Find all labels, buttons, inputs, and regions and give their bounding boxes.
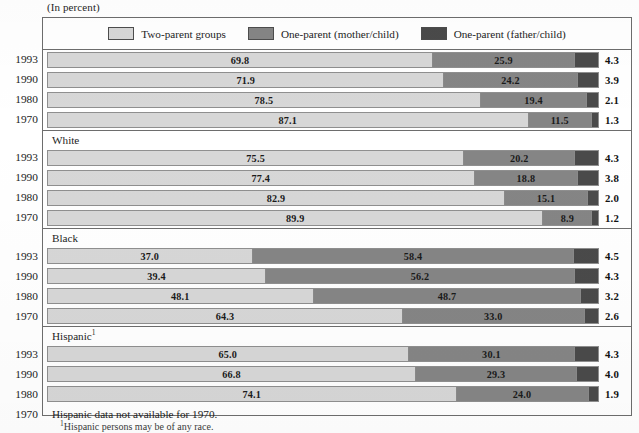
bar-segment-one-parent-mother: 11.5 (528, 113, 591, 127)
chart-row: 66.829.34.04.0 (43, 364, 631, 384)
bar-segment-two-parent: 71.9 (48, 73, 443, 87)
row-value-father-child: 3.9 (605, 72, 619, 88)
bar-segment-value: 56.2 (411, 271, 430, 282)
chart-row: 87.111.51.31.3 (43, 110, 631, 130)
bar-segment-two-parent: 66.8 (48, 367, 415, 381)
bar-segment-value: 66.8 (222, 369, 241, 380)
stacked-bar: 48.148.73.2 (47, 288, 599, 304)
bar-segment-one-parent-father: 4.3 (574, 151, 598, 165)
bar-segment-value: 77.4 (252, 173, 271, 184)
row-value-father-child: 4.3 (605, 150, 619, 166)
chart-plot-area: 69.825.94.34.371.924.23.93.978.519.42.12… (43, 50, 631, 415)
stacked-bar: 66.829.34.0 (47, 366, 599, 382)
year-axis-label: 1970 (0, 404, 38, 424)
legend-item-label: One-parent (father/child) (454, 28, 566, 40)
stacked-bar: 39.456.24.3 (47, 268, 599, 284)
bar-segment-value: 74.1 (242, 389, 261, 400)
legend-item-label: Two-parent groups (141, 28, 226, 40)
row-value-father-child: 1.3 (605, 112, 619, 128)
bar-segment-one-parent-father: 3.8 (577, 171, 598, 185)
bar-segment-value: 65.0 (219, 349, 238, 360)
chart-row: 48.148.73.23.2 (43, 286, 631, 306)
bar-segment-one-parent-father: 2.0 (587, 191, 598, 205)
chart-legend: Two-parent groupsOne-parent (mother/chil… (43, 18, 631, 50)
bar-segment-value: 33.0 (484, 311, 503, 322)
stacked-bar: 69.825.94.3 (47, 52, 599, 68)
bar-segment-value: 25.9 (494, 55, 513, 66)
bar-segment-two-parent: 48.1 (48, 289, 313, 303)
bar-segment-one-parent-mother: 48.7 (313, 289, 581, 303)
year-axis-label: 1980 (0, 89, 38, 109)
chart-group-all: 69.825.94.34.371.924.23.93.978.519.42.12… (43, 50, 631, 130)
footnote-text: Hispanic persons may be of any race. (64, 421, 214, 432)
year-axis-label: 1993 (0, 246, 38, 266)
bar-segment-one-parent-father: 3.2 (580, 289, 598, 303)
bar-segment-one-parent-mother: 19.4 (480, 93, 587, 107)
bar-segment-one-parent-mother: 24.2 (443, 73, 576, 87)
bar-segment-value: 58.4 (404, 251, 423, 262)
bar-segment-one-parent-mother: 25.9 (432, 53, 574, 67)
bar-segment-one-parent-father: 1.2 (591, 211, 598, 225)
bar-segment-value: 89.9 (286, 213, 305, 224)
stacked-bar: 71.924.23.9 (47, 72, 599, 88)
chart-group-black: Black37.058.44.54.539.456.24.34.348.148.… (43, 228, 631, 326)
bar-segment-two-parent: 77.4 (48, 171, 474, 185)
legend-swatch-medium (248, 27, 274, 40)
bar-segment-two-parent: 74.1 (48, 387, 456, 401)
stacked-bar: 37.058.44.5 (47, 248, 599, 264)
bar-segment-one-parent-father: 4.3 (574, 347, 598, 361)
bar-segment-value: 64.3 (216, 311, 235, 322)
bar-segment-one-parent-father: 2.1 (586, 93, 598, 107)
legend-item: One-parent (father/child) (421, 27, 566, 40)
chart-group-white: White75.520.24.34.377.418.83.83.882.915.… (43, 130, 631, 228)
bar-segment-value: 18.8 (517, 173, 536, 184)
chart-row: 77.418.83.83.8 (43, 168, 631, 188)
stacked-bar: 77.418.83.8 (47, 170, 599, 186)
bar-segment-one-parent-mother: 15.1 (504, 191, 587, 205)
bar-segment-one-parent-father: 3.9 (577, 73, 598, 87)
bar-segment-two-parent: 37.0 (48, 249, 252, 263)
chart-row: 71.924.23.93.9 (43, 70, 631, 90)
bar-segment-two-parent: 78.5 (48, 93, 480, 107)
bar-segment-one-parent-mother: 8.9 (542, 211, 591, 225)
chart-row: 82.915.12.02.0 (43, 188, 631, 208)
row-value-father-child: 2.0 (605, 190, 619, 206)
stacked-bar: 82.915.12.0 (47, 190, 599, 206)
bar-segment-value: 11.5 (551, 115, 569, 126)
bar-segment-value: 24.0 (513, 389, 532, 400)
bar-segment-one-parent-mother: 33.0 (402, 309, 584, 323)
row-value-father-child: 2.1 (605, 92, 619, 108)
stacked-bar: 89.98.91.2 (47, 210, 599, 226)
year-axis-label: 1990 (0, 69, 38, 89)
chart-row: 74.124.01.91.9 (43, 384, 631, 404)
legend-swatch-dark (421, 27, 447, 40)
bar-segment-one-parent-mother: 20.2 (463, 151, 574, 165)
bar-segment-two-parent: 87.1 (48, 113, 528, 127)
bar-segment-value: 78.5 (255, 95, 274, 106)
unit-label: (In percent) (47, 1, 100, 13)
chart-row: 89.98.91.21.2 (43, 208, 631, 228)
stacked-bar: 87.111.51.3 (47, 112, 599, 128)
stacked-bar: 65.030.14.3 (47, 346, 599, 362)
year-axis-label: 1993 (0, 147, 38, 167)
bar-segment-one-parent-father: 1.3 (591, 113, 598, 127)
year-axis-label: 1993 (0, 49, 38, 69)
row-value-father-child: 2.6 (605, 308, 619, 324)
year-axis-label: 1980 (0, 187, 38, 207)
legend-item: One-parent (mother/child) (248, 27, 399, 40)
bar-segment-value: 75.5 (246, 153, 265, 164)
bar-segment-value: 29.3 (487, 369, 506, 380)
row-value-father-child: 4.0 (605, 366, 619, 382)
bar-segment-two-parent: 64.3 (48, 309, 402, 323)
bar-segment-value: 24.2 (501, 75, 520, 86)
bar-segment-two-parent: 82.9 (48, 191, 504, 205)
legend-item: Two-parent groups (108, 27, 226, 40)
bar-segment-one-parent-mother: 29.3 (415, 367, 576, 381)
bar-segment-one-parent-father: 1.9 (588, 387, 598, 401)
year-axis-label: 1970 (0, 109, 38, 129)
bar-segment-one-parent-mother: 58.4 (252, 249, 574, 263)
row-value-father-child: 1.9 (605, 386, 619, 402)
bar-segment-value: 48.1 (171, 291, 190, 302)
row-value-father-child: 4.3 (605, 346, 619, 362)
year-axis-label: 1980 (0, 286, 38, 306)
